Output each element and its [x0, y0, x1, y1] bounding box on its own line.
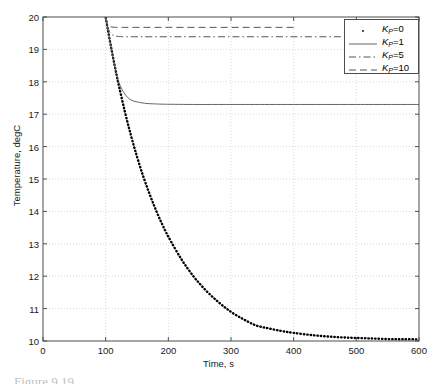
legend-marker-dashdot-line: [348, 49, 378, 61]
legend-item-kp=5[interactable]: KP=5: [345, 48, 418, 61]
y-tick-label: 13: [10, 238, 39, 249]
y-tick-label: 19: [10, 44, 39, 55]
legend-marker-solid-line: [348, 36, 378, 48]
y-tick-label: 20: [10, 12, 39, 23]
legend-label: KP=0: [382, 23, 404, 34]
y-tick-label: 11: [10, 303, 39, 314]
legend-label: KP=1: [382, 36, 404, 47]
x-axis-label: Time, s: [0, 358, 437, 369]
x-tick-label: 200: [160, 345, 176, 356]
legend-item-kp=10[interactable]: KP=10: [345, 61, 418, 74]
x-tick-label: 100: [98, 345, 114, 356]
y-tick-label: 18: [10, 76, 39, 87]
x-tick-label: 500: [348, 345, 364, 356]
figure-container: 1011121314151617181920 01002003004005006…: [0, 0, 437, 384]
x-tick-label: 400: [286, 345, 302, 356]
y-tick-label: 12: [10, 271, 39, 282]
legend-marker-dashed-line: [348, 62, 378, 74]
y-axis-label: Temperature, degC: [11, 106, 22, 226]
legend[interactable]: KP=0KP=1KP=5KP=10: [344, 19, 419, 74]
caption-text: Figure 9.19: [14, 374, 437, 384]
legend-item-kp=0[interactable]: KP=0: [345, 22, 418, 35]
y-tick-label: 10: [10, 336, 39, 347]
legend-label: KP=5: [382, 49, 404, 60]
x-tick-label: 300: [223, 345, 239, 356]
legend-marker-dot-marker: [348, 23, 378, 35]
x-tick-label: 600: [411, 345, 427, 356]
legend-item-kp=1[interactable]: KP=1: [345, 35, 418, 48]
legend-label: KP=10: [382, 62, 409, 73]
x-tick-label: 0: [40, 345, 45, 356]
